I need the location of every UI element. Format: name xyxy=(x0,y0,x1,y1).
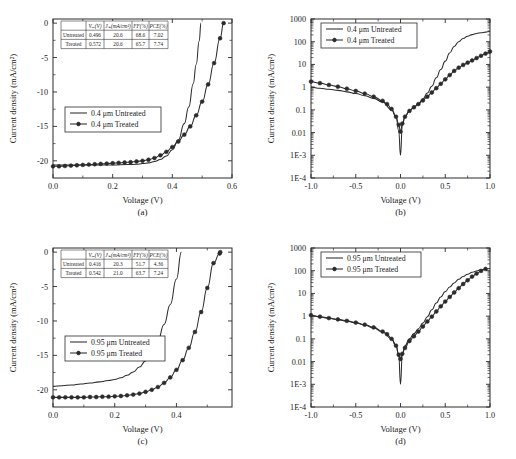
data-marker xyxy=(475,272,479,276)
svg-text:0.0: 0.0 xyxy=(48,182,58,191)
table-header-cell: FF(%) xyxy=(132,252,148,259)
table-cell: 0.542 xyxy=(89,270,101,276)
data-marker xyxy=(425,320,429,324)
data-marker xyxy=(222,21,226,25)
panel-caption: (c) xyxy=(138,436,148,446)
data-marker xyxy=(105,162,109,166)
figure-container: 0.00.20.40.60-5-10-15-20Voltage (V)Curre… xyxy=(0,0,516,459)
data-marker xyxy=(421,325,425,329)
x-axis-label: Voltage (V) xyxy=(380,195,420,205)
y-axis-label: Current density (mA/cm²) xyxy=(266,54,276,144)
panel-c: 0.00.20.40-5-10-15-20Voltage (V)Current … xyxy=(0,229,258,459)
svg-text:-15: -15 xyxy=(37,351,48,360)
table-row-label: Untreated xyxy=(63,32,84,38)
svg-text:1E-4: 1E-4 xyxy=(290,403,306,412)
data-marker xyxy=(470,59,474,63)
svg-text:0.6: 0.6 xyxy=(227,182,237,191)
data-marker xyxy=(443,77,447,81)
data-marker xyxy=(412,334,416,338)
data-marker xyxy=(162,381,166,385)
svg-text:10: 10 xyxy=(298,289,306,298)
data-marker xyxy=(439,82,443,86)
data-marker xyxy=(461,63,465,67)
data-marker xyxy=(400,352,404,356)
curve-treated xyxy=(311,269,486,359)
data-marker xyxy=(144,390,148,394)
table-row-label: Treated xyxy=(66,270,82,276)
legend-label: 0.4 μm Treated xyxy=(91,120,138,129)
svg-text:-0.5: -0.5 xyxy=(349,411,362,420)
data-marker xyxy=(57,395,61,399)
data-marker xyxy=(412,105,416,109)
data-marker xyxy=(88,395,92,399)
data-marker xyxy=(345,319,349,323)
data-marker xyxy=(212,261,216,265)
chart-b: -1.0-0.50.00.51.010001001010.10.011E-31E… xyxy=(258,0,516,230)
svg-text:0.2: 0.2 xyxy=(110,411,120,420)
table-cell: 7.02 xyxy=(154,32,164,38)
svg-text:-0.5: -0.5 xyxy=(349,182,362,191)
data-marker xyxy=(439,304,443,308)
table-header-cell: Jₛₑ(mA/cm²) xyxy=(105,252,131,259)
svg-text:-20: -20 xyxy=(37,157,48,166)
x-axis-label: Voltage (V) xyxy=(380,424,420,434)
data-marker xyxy=(381,99,385,103)
data-marker xyxy=(448,73,452,77)
panel-caption: (d) xyxy=(395,436,406,446)
data-marker xyxy=(430,315,434,319)
parameter-table: Vₒₑ(V)Jₛₑ(mA/cm²)FF(%)PCE(%)Untreated0.4… xyxy=(61,21,168,49)
table-cell: 20.3 xyxy=(113,261,123,267)
data-marker xyxy=(318,81,322,85)
y-axis-label: Current density (mA/cm²) xyxy=(8,283,18,373)
data-marker xyxy=(461,282,465,286)
data-marker xyxy=(181,358,185,362)
table-header-cell: Vₒₑ(V) xyxy=(89,252,102,259)
svg-text:0.1: 0.1 xyxy=(296,106,306,115)
svg-text:0.5: 0.5 xyxy=(440,182,450,191)
data-marker xyxy=(156,385,160,389)
data-marker xyxy=(75,163,79,167)
legend: 0.4 μm Untreated0.4 μm Treated xyxy=(65,107,161,132)
data-marker xyxy=(417,102,421,106)
table-cell: 4.36 xyxy=(154,261,164,267)
data-marker xyxy=(434,86,438,90)
svg-text:-10: -10 xyxy=(37,317,48,326)
data-marker xyxy=(309,80,313,84)
panel-caption: (a) xyxy=(138,207,148,217)
data-marker xyxy=(51,395,55,399)
data-marker xyxy=(466,278,470,282)
svg-text:1: 1 xyxy=(302,83,306,92)
table-cell: 7.24 xyxy=(154,270,164,276)
svg-text:0.5: 0.5 xyxy=(440,411,450,420)
data-marker xyxy=(87,163,91,167)
y-axis-label: Current density (mA/cm²) xyxy=(266,283,276,373)
data-marker xyxy=(70,395,74,399)
svg-text:1E-4: 1E-4 xyxy=(290,174,306,183)
data-marker xyxy=(125,393,129,397)
data-marker xyxy=(434,310,438,314)
data-marker xyxy=(159,153,163,157)
data-marker xyxy=(345,87,349,91)
data-marker xyxy=(57,164,61,168)
data-marker xyxy=(475,56,479,60)
data-marker xyxy=(400,122,404,126)
svg-text:0.4: 0.4 xyxy=(171,411,181,420)
data-marker xyxy=(399,357,403,361)
data-marker xyxy=(100,395,104,399)
svg-text:1.0: 1.0 xyxy=(485,411,495,420)
data-marker xyxy=(385,102,389,106)
data-marker xyxy=(147,158,151,162)
data-marker xyxy=(138,392,142,396)
data-marker xyxy=(372,95,376,99)
svg-text:0: 0 xyxy=(44,19,48,28)
table-row-label: Untreated xyxy=(63,261,84,267)
x-axis-label: Voltage (V) xyxy=(122,195,162,205)
data-marker xyxy=(309,313,313,317)
table-cell: 20.6 xyxy=(113,32,123,38)
parameter-table: Vₒₑ(V)Jₛₑ(mA/cm²)FF(%)PCE(%)Untreated0.4… xyxy=(61,250,168,278)
data-marker xyxy=(448,295,452,299)
data-marker xyxy=(336,85,340,89)
svg-text:100: 100 xyxy=(294,38,306,47)
data-marker xyxy=(107,395,111,399)
table-header-cell: Jₛₑ(mA/cm²) xyxy=(105,23,131,30)
